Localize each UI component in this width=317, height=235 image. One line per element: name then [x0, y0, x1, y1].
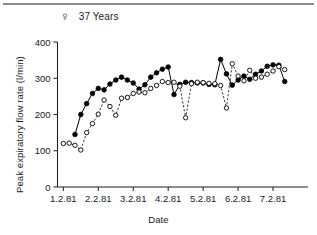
data-point-filled-circle	[259, 69, 264, 74]
data-series-layer	[61, 57, 287, 152]
data-point-open-circle	[90, 121, 94, 125]
data-point-open-circle	[137, 90, 141, 94]
data-point-filled-circle	[183, 80, 188, 85]
top-divider	[3, 3, 314, 5]
data-point-open-circle	[102, 98, 106, 102]
y-tick-label: 400	[35, 37, 51, 48]
data-point-filled-circle	[154, 71, 159, 76]
data-point-open-circle	[248, 68, 252, 72]
data-point-filled-circle	[265, 64, 270, 69]
data-point-open-circle	[236, 74, 240, 78]
x-axis-title: Date	[0, 214, 317, 225]
data-point-filled-circle	[148, 75, 153, 80]
data-point-filled-circle	[125, 78, 130, 83]
y-tick-label: 100	[35, 145, 51, 156]
data-point-filled-circle	[247, 77, 252, 82]
chart-header: ♀ 37 Years	[60, 10, 118, 23]
data-point-open-circle	[277, 64, 281, 68]
data-point-filled-circle	[119, 75, 124, 80]
data-point-open-circle	[131, 91, 135, 95]
data-point-open-circle	[84, 130, 88, 134]
data-point-filled-circle	[131, 81, 136, 86]
y-tick-label: 0	[45, 182, 50, 193]
x-tick-label: 5.2.81	[190, 193, 216, 204]
data-point-open-circle	[67, 141, 71, 145]
x-tick-label: 7.2.81	[260, 193, 286, 204]
data-point-filled-circle	[96, 86, 101, 91]
data-point-open-circle	[283, 67, 287, 71]
y-axis-title: Peak expiratory flow rate (l/min)	[14, 56, 25, 193]
data-point-open-circle	[79, 148, 83, 152]
data-point-filled-circle	[166, 65, 171, 70]
data-point-open-circle	[224, 106, 228, 110]
x-axis-ticks: 1.2.812.2.813.2.814.2.815.2.816.2.817.2.…	[50, 187, 286, 204]
data-point-open-circle	[119, 96, 123, 100]
data-point-open-circle	[172, 80, 176, 84]
female-symbol-icon: ♀	[60, 10, 70, 23]
y-tick-label: 300	[35, 73, 51, 84]
data-point-open-circle	[178, 84, 182, 88]
data-point-filled-circle	[79, 112, 84, 117]
data-point-open-circle	[218, 83, 222, 87]
series-line-1	[63, 64, 284, 150]
data-point-filled-circle	[143, 82, 148, 87]
data-point-filled-circle	[271, 63, 276, 68]
data-point-open-circle	[166, 80, 170, 84]
data-point-open-circle	[195, 80, 199, 84]
data-point-filled-circle	[108, 82, 113, 87]
data-point-open-circle	[114, 113, 118, 117]
data-point-open-circle	[230, 62, 234, 66]
chart-figure: ♀ 37 Years Peak expiratory flow rate (l/…	[0, 0, 317, 235]
data-point-filled-circle	[224, 72, 229, 77]
data-point-open-circle	[271, 69, 275, 73]
data-point-open-circle	[207, 81, 211, 85]
data-point-open-circle	[189, 81, 193, 85]
data-point-filled-circle	[113, 78, 118, 83]
data-point-filled-circle	[160, 67, 165, 72]
data-point-filled-circle	[102, 88, 107, 93]
data-point-open-circle	[242, 79, 246, 83]
data-point-open-circle	[61, 141, 65, 145]
x-tick-label: 1.2.81	[50, 193, 76, 204]
data-point-open-circle	[154, 83, 158, 87]
data-point-filled-circle	[172, 92, 177, 97]
data-point-open-circle	[96, 112, 100, 116]
x-tick-label: 2.2.81	[85, 193, 111, 204]
data-point-open-circle	[149, 86, 153, 90]
data-point-filled-circle	[84, 101, 89, 106]
data-point-open-circle	[108, 104, 112, 108]
data-point-filled-circle	[218, 57, 223, 62]
data-point-open-circle	[213, 81, 217, 85]
data-point-filled-circle	[230, 83, 235, 88]
data-point-open-circle	[73, 143, 77, 147]
data-point-open-circle	[201, 80, 205, 84]
data-point-filled-circle	[90, 91, 95, 96]
data-point-filled-circle	[282, 79, 287, 84]
x-tick-label: 4.2.81	[155, 193, 181, 204]
series-line-0	[75, 59, 285, 134]
x-tick-label: 6.2.81	[225, 193, 251, 204]
age-label: 37 Years	[79, 11, 119, 22]
data-point-filled-circle	[73, 132, 78, 137]
data-point-open-circle	[125, 95, 129, 99]
data-point-open-circle	[160, 79, 164, 83]
data-point-open-circle	[259, 75, 263, 79]
y-axis-ticks: 0100200300400	[35, 37, 58, 193]
data-point-open-circle	[265, 72, 269, 76]
data-point-open-circle	[143, 91, 147, 95]
data-point-open-circle	[183, 116, 187, 120]
plot-canvas: 0100200300400 1.2.812.2.813.2.814.2.815.…	[0, 0, 317, 235]
y-tick-label: 200	[35, 109, 51, 120]
x-tick-label: 3.2.81	[120, 193, 146, 204]
data-point-open-circle	[253, 76, 257, 80]
